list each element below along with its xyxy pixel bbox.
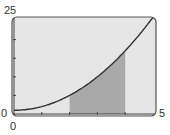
- plot-area: [0, 0, 170, 135]
- y-min-label: 0: [1, 108, 7, 119]
- x-max-label: 5: [159, 108, 165, 119]
- y-max-label: 25: [4, 5, 16, 16]
- x-min-label: 0: [10, 121, 16, 132]
